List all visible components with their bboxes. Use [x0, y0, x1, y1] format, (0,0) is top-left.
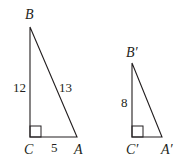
- triangle-abc-prime: B′ C′ A′ 8: [121, 45, 174, 157]
- side-label-ca: 5: [51, 140, 58, 155]
- side-label-ba: 13: [59, 80, 72, 95]
- vertex-label-c: C: [24, 142, 34, 157]
- vertex-label-a-prime: A′: [160, 142, 174, 157]
- side-label-bc: 12: [13, 80, 26, 95]
- triangle-abc: B C A 12 13 5: [13, 7, 83, 157]
- similar-triangles-diagram: B C A 12 13 5 B′ C′ A′ 8: [0, 0, 183, 168]
- vertex-label-b: B: [25, 7, 34, 22]
- vertex-label-c-prime: C′: [126, 142, 139, 157]
- right-angle-marker-c: [30, 126, 41, 137]
- right-angle-marker-c-prime: [132, 126, 143, 137]
- side-label-b-prime-c-prime: 8: [121, 95, 128, 110]
- vertex-label-a: A: [73, 142, 83, 157]
- vertex-label-b-prime: B′: [126, 45, 139, 60]
